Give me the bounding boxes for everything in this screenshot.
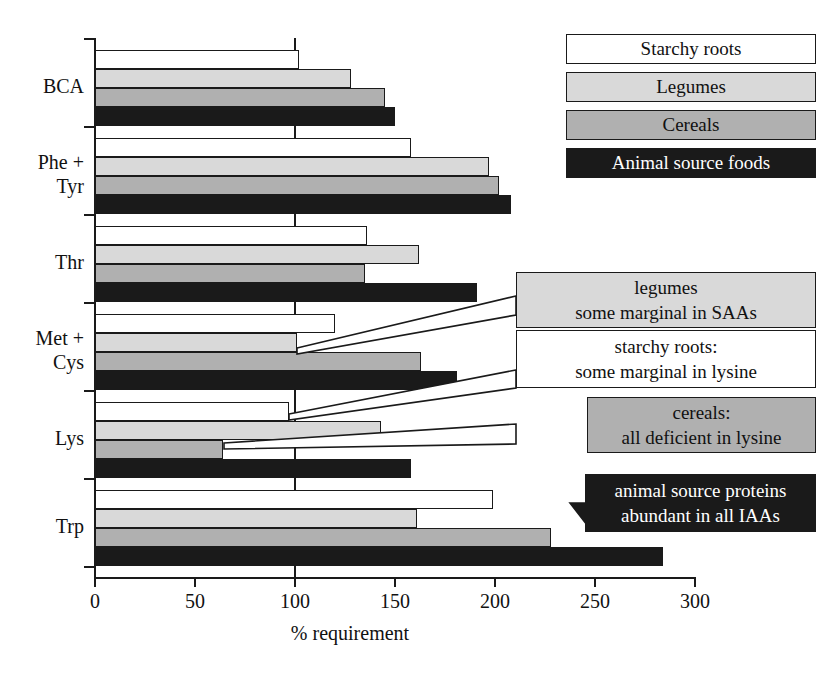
- y-axis-label-thr: Thr: [4, 250, 84, 274]
- callout-line-1: starchy roots:: [615, 334, 718, 359]
- y-tick: [84, 214, 95, 216]
- bar: [95, 402, 289, 421]
- bar: [95, 283, 477, 302]
- bar: [95, 264, 365, 283]
- callout-line-2: abundant in all IAAs: [621, 503, 780, 528]
- legend-item-cereals[interactable]: Cereals: [566, 110, 816, 140]
- x-tick-label: 250: [580, 590, 610, 612]
- bar: [95, 421, 381, 440]
- y-axis-label-bca: BCA: [4, 74, 84, 98]
- bar: [95, 440, 223, 459]
- y-axis-label-metcys: Met +Cys: [4, 326, 84, 374]
- bar: [95, 107, 395, 126]
- legend-item-starchy-roots[interactable]: Starchy roots: [566, 34, 816, 64]
- bar: [95, 245, 419, 264]
- bar: [95, 69, 351, 88]
- legend-item-label: Starchy roots: [641, 38, 742, 60]
- legend-item-label: Animal source foods: [612, 152, 770, 174]
- x-tick: [194, 577, 196, 587]
- legend-item-label: Cereals: [663, 114, 720, 136]
- bar: [95, 176, 499, 195]
- bar: [95, 157, 489, 176]
- x-tick-label: 200: [480, 590, 510, 612]
- y-tick: [84, 302, 95, 304]
- x-tick: [494, 577, 496, 587]
- x-tick-label: 0: [90, 590, 100, 612]
- x-tick: [594, 577, 596, 587]
- x-tick: [294, 577, 296, 587]
- bar: [95, 352, 421, 371]
- bar: [95, 333, 297, 352]
- bar: [95, 459, 411, 478]
- x-tick: [694, 577, 696, 587]
- legend-item-animal-source-foods[interactable]: Animal source foods: [566, 148, 816, 178]
- callout-cereals-lysine: cereals: all deficient in lysine: [587, 397, 816, 453]
- callout-line-2: all deficient in lysine: [622, 425, 782, 450]
- y-axis-label-phetyr: Phe +Tyr: [4, 150, 84, 198]
- x-tick: [94, 577, 96, 587]
- x-axis-title: % requirement: [0, 622, 700, 645]
- bar: [95, 226, 367, 245]
- callout-animal-source-iaa: animal source proteins abundant in all I…: [585, 474, 816, 532]
- bar: [95, 547, 663, 566]
- callout-line-2: some marginal in SAAs: [575, 300, 757, 325]
- y-tick: [84, 478, 95, 480]
- x-tick-label: 300: [680, 590, 710, 612]
- y-tick: [84, 390, 95, 392]
- bar: [95, 195, 511, 214]
- y-axis-label-lys: Lys: [4, 426, 84, 450]
- y-axis-label-trp: Trp: [4, 514, 84, 538]
- bar: [95, 509, 417, 528]
- legend-item-label: Legumes: [656, 76, 726, 98]
- callout-line-1: legumes: [634, 275, 697, 300]
- x-tick-label: 150: [380, 590, 410, 612]
- legend: Starchy rootsLegumesCerealsAnimal source…: [566, 34, 816, 186]
- y-tick: [84, 38, 95, 40]
- y-tick: [84, 566, 95, 568]
- callout-legumes-saa: legumes some marginal in SAAs: [516, 272, 816, 328]
- bar: [95, 88, 385, 107]
- callout-line-2: some marginal in lysine: [575, 359, 757, 384]
- callout-line-1: animal source proteins: [614, 478, 786, 503]
- x-tick-label: 100: [280, 590, 310, 612]
- bar: [95, 528, 551, 547]
- bar: [95, 314, 335, 333]
- chart-root: 050100150200250300 BCAPhe +TyrThrMet +Cy…: [0, 0, 831, 678]
- callout-line-1: cereals:: [672, 400, 730, 425]
- x-tick: [394, 577, 396, 587]
- bar: [95, 50, 299, 69]
- y-tick: [84, 126, 95, 128]
- y-axis-label-group: BCAPhe +TyrThrMet +CysLysTrp: [0, 0, 84, 678]
- x-tick-label: 50: [185, 590, 205, 612]
- callout-starchy-roots-lysine: starchy roots: some marginal in lysine: [516, 330, 816, 388]
- bar: [95, 371, 457, 390]
- legend-item-legumes[interactable]: Legumes: [566, 72, 816, 102]
- bar: [95, 138, 411, 157]
- bar: [95, 490, 493, 509]
